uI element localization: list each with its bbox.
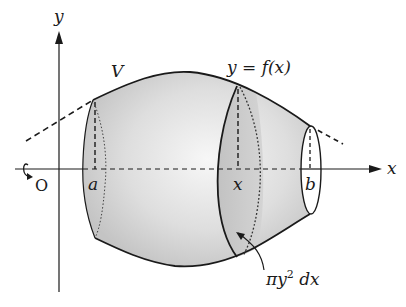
curve-label: y = f(x)	[226, 57, 291, 77]
slice-volume-label: πy2 dx	[265, 268, 320, 289]
solid-label: V	[111, 61, 125, 81]
a-label: a	[88, 174, 98, 194]
x-axis-label: x	[387, 158, 397, 178]
rotation-arrow-icon	[24, 164, 33, 180]
y-axis-label: y	[53, 6, 64, 26]
origin-label: O	[35, 176, 48, 195]
solid-of-revolution-diagram: y x O V y = f(x) a x b πy2 dx	[0, 0, 406, 307]
b-label: b	[305, 174, 316, 194]
y-axis-arrow-icon	[55, 31, 63, 44]
x-axis-arrow-icon	[369, 165, 382, 173]
b-end-cap	[301, 126, 321, 214]
x-position-label: x	[233, 174, 243, 194]
y-axis	[55, 31, 63, 292]
